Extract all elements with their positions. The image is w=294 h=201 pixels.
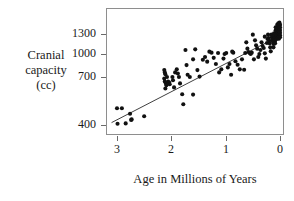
y-axis-tick-label: 700 (78, 69, 96, 84)
y-axis-tick (101, 77, 106, 78)
x-axis-tick-label: 0 (270, 142, 290, 157)
x-axis-tick-label: 3 (107, 142, 127, 157)
y-axis-tick-label: 1300 (72, 26, 96, 41)
plot-frame (106, 8, 284, 135)
y-axis-title-line-2: capacity (4, 63, 88, 78)
x-axis-tick (226, 136, 227, 141)
x-axis-tick (117, 136, 118, 141)
y-axis-tick-label: 1000 (72, 46, 96, 61)
y-axis-tick (101, 125, 106, 126)
x-axis-tick-label: 2 (161, 142, 181, 157)
cranial-capacity-scatter-chart: Cranial capacity (cc) 400700100013003210… (0, 0, 294, 201)
x-axis-tick-label: 1 (216, 142, 236, 157)
y-axis-tick (101, 54, 106, 55)
x-axis-title: Age in Millions of Years (106, 172, 284, 187)
y-axis-title-line-3: (cc) (4, 78, 88, 93)
x-axis-tick (171, 136, 172, 141)
y-axis-tick-label: 400 (78, 117, 96, 132)
x-axis-tick (280, 136, 281, 141)
y-axis-tick (101, 34, 106, 35)
